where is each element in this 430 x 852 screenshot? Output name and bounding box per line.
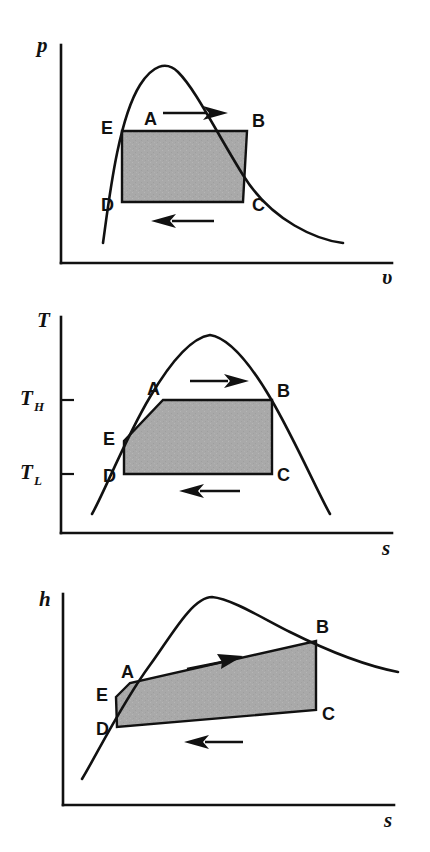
tick-label-th-main: T [20,386,34,410]
cycle-region-shaded [122,131,247,202]
expansion-arrow-right [190,374,249,388]
point-label-b: B [277,381,290,401]
cycle-region-shaded [124,400,272,474]
point-label-b: B [252,111,265,131]
compression-arrow-left [184,735,243,749]
pv-diagram-canvas: p υ A B C D E [0,0,430,285]
point-label-b: B [316,617,329,637]
tick-label-tl-main: T [20,460,34,484]
y-axis-label: p [35,33,48,57]
point-label-d: D [96,719,109,739]
point-label-a: A [147,379,160,399]
point-label-c: C [322,704,335,724]
x-axis-label: s [381,536,390,560]
tick-label-tl: T L [20,460,42,488]
point-label-e: E [101,118,113,138]
compression-arrow-left [151,214,214,228]
compression-arrow-left [179,484,240,498]
point-label-d: D [103,466,116,486]
point-label-c: C [252,195,265,215]
cycle-region-shaded [116,641,316,727]
point-label-a: A [121,662,134,682]
y-axis-label: h [39,587,51,611]
x-axis-label: υ [382,265,392,285]
point-label-e: E [103,429,115,449]
point-label-a: A [144,109,157,129]
tick-label-tl-sub: L [33,473,42,488]
pv-diagram: p υ A B C D E [0,0,430,285]
ts-diagram: T s T H T L A B C D E [0,285,430,570]
expansion-arrow-right [163,106,228,120]
ts-diagram-canvas: T s T H T L A B C D E [0,285,430,570]
hs-diagram: h s A B C D E [0,570,430,852]
tick-label-th: T H [20,386,45,414]
point-label-c: C [277,465,290,485]
tick-label-th-sub: H [33,399,45,414]
y-axis-label: T [37,308,51,332]
figure-page: p υ A B C D E [0,0,430,852]
hs-diagram-canvas: h s A B C D E [0,570,430,852]
x-axis-label: s [383,808,392,832]
point-label-e: E [96,685,108,705]
point-label-d: D [101,195,114,215]
